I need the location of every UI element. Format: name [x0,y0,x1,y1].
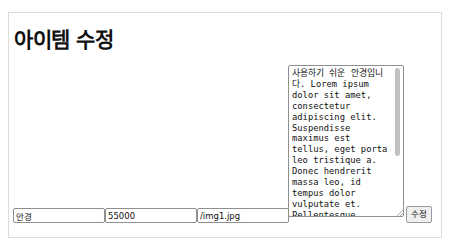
description-textarea[interactable]: 사용하기 쉬운 안경입니다. Lorem ipsum dolor sit ame… [288,65,404,217]
description-scrollbar[interactable] [395,68,401,214]
price-input[interactable] [105,208,197,223]
page-title: 아이템 수정 [14,23,113,53]
name-input[interactable] [13,208,105,223]
edit-item-card: 아이템 수정 사용하기 쉬운 안경입니다. Lorem ipsum dolor … [8,12,442,238]
resize-handle-icon[interactable] [397,209,404,216]
scrollbar-thumb[interactable] [395,68,400,156]
image-path-input[interactable] [197,208,289,223]
submit-button[interactable]: 수정 [406,206,432,223]
